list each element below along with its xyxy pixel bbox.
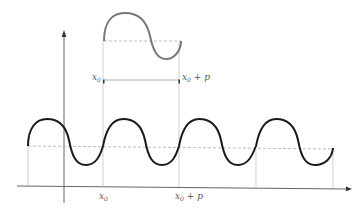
periodic-function-diagram: x0 x0 + p x0 x0 + p (0, 0, 364, 210)
label-x0-inset: x0 (92, 72, 101, 83)
label-x0p-axis: x0 + p (175, 191, 203, 202)
x-axis (17, 186, 348, 189)
inset-wave (104, 13, 181, 59)
guide-lines (28, 41, 333, 189)
main-dashed-baseline (28, 146, 333, 149)
bracket-tick-left (103, 80, 105, 84)
main-wave (28, 119, 333, 165)
label-x0-axis: x0 (99, 191, 108, 202)
x-axis-arrow-icon (346, 187, 352, 192)
label-x0p-inset: x0 + p (182, 72, 210, 83)
y-axis-arrow-icon (62, 30, 67, 37)
bracket-tick-right (179, 80, 181, 84)
